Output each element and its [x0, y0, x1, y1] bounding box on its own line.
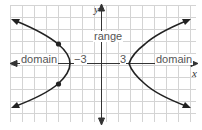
- tick-label-negative-3: −3: [74, 54, 87, 65]
- range-label: range: [93, 31, 123, 42]
- y-axis-down-arrow: [99, 118, 105, 125]
- domain-right-label: domain: [155, 54, 193, 65]
- point-upper-left: [56, 41, 61, 46]
- point-lower-left: [56, 81, 61, 86]
- domain-left-label: domain: [20, 54, 58, 65]
- tick-label-positive-3: 3: [120, 54, 126, 65]
- x-axis-label: x: [192, 68, 197, 79]
- hyperbola-graph: [0, 0, 202, 130]
- y-axis-label: y: [94, 4, 99, 15]
